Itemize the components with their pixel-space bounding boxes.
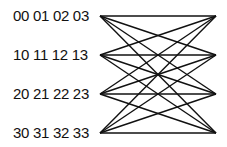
bipartite-edges <box>0 0 227 147</box>
